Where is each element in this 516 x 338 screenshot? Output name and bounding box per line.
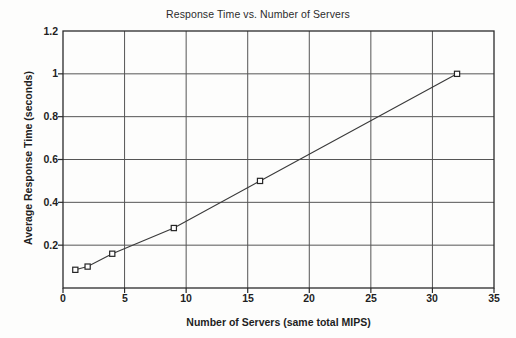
plot-area [0, 0, 516, 338]
data-point [257, 178, 262, 183]
data-point [171, 225, 176, 230]
data-point [454, 71, 459, 76]
data-markers [73, 71, 460, 272]
chart-figure: Response Time vs. Number of Servers Aver… [0, 0, 516, 338]
axis-ticks [58, 74, 494, 293]
data-line [75, 74, 457, 270]
data-point [73, 267, 78, 272]
data-point [85, 264, 90, 269]
gridlines [63, 31, 494, 288]
data-point [110, 251, 115, 256]
